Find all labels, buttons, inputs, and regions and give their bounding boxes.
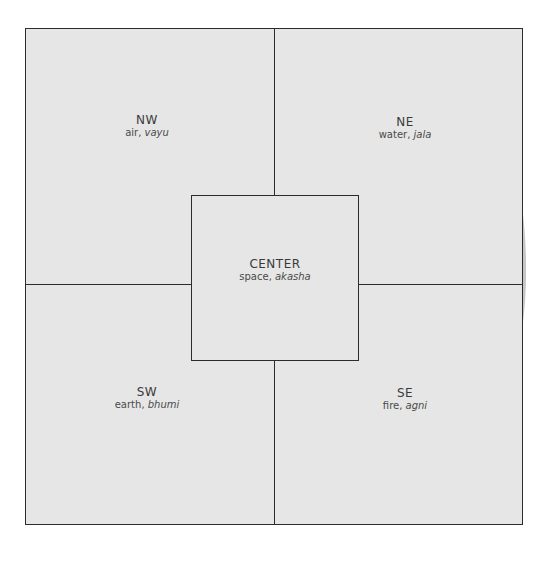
element-label: water, jala xyxy=(379,129,432,141)
element-label: fire, agni xyxy=(383,400,427,412)
vertical-divider-top xyxy=(274,28,275,195)
element-label: air, vayu xyxy=(125,127,169,139)
region-se: SE fire, agni xyxy=(383,386,427,412)
region-ne: NE water, jala xyxy=(379,115,432,141)
region-center: CENTER space, akasha xyxy=(239,257,310,283)
direction-label: SE xyxy=(383,386,427,400)
direction-label: SW xyxy=(115,385,180,399)
region-sw: SW earth, bhumi xyxy=(115,385,180,411)
region-nw: NW air, vayu xyxy=(125,113,169,139)
direction-label: CENTER xyxy=(239,257,310,271)
horizontal-divider-left xyxy=(25,284,191,285)
direction-label: NW xyxy=(125,113,169,127)
horizontal-divider-right xyxy=(359,284,523,285)
vertical-divider-bottom xyxy=(274,361,275,525)
element-label: earth, bhumi xyxy=(115,399,180,411)
direction-label: NE xyxy=(379,115,432,129)
element-label: space, akasha xyxy=(239,271,310,283)
